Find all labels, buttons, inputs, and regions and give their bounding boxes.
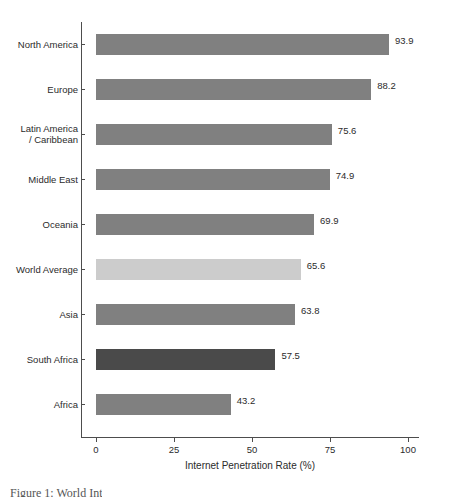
- figure-container: North AmericaEuropeLatin America / Carib…: [0, 0, 471, 497]
- x-axis-tick-label: 0: [93, 444, 98, 455]
- x-axis-tick-label: 100: [400, 444, 416, 455]
- y-axis-tick: [81, 224, 85, 225]
- y-axis-category-label: North America: [0, 39, 78, 50]
- bar-value-label: 75.6: [338, 126, 357, 136]
- bar-value-label: 88.2: [377, 81, 396, 91]
- y-axis-category-label: World Average: [0, 264, 78, 275]
- plot-area: 93.988.275.674.969.965.663.857.543.2: [81, 22, 408, 437]
- y-axis-category-label: Europe: [0, 84, 78, 95]
- y-axis-tick: [81, 404, 85, 405]
- y-axis-tick: [81, 44, 85, 45]
- bar-row: 57.5: [81, 337, 408, 382]
- y-axis-tick: [81, 134, 85, 135]
- bar-value-label: 69.9: [320, 216, 339, 226]
- bar-row: 75.6: [81, 112, 408, 157]
- y-axis-category-label: Latin America / Caribbean: [0, 123, 78, 145]
- bar-value-label: 43.2: [237, 396, 256, 406]
- bar-row: 74.9: [81, 157, 408, 202]
- bar[interactable]: [96, 34, 389, 55]
- x-axis-tick: [96, 438, 97, 442]
- x-axis-tick-label: 25: [169, 444, 180, 455]
- y-axis-category-label: Africa: [0, 399, 78, 410]
- bar-row: 63.8: [81, 292, 408, 337]
- bar[interactable]: [96, 214, 314, 235]
- y-axis-category-label: South Africa: [0, 354, 78, 365]
- x-axis-tick: [174, 438, 175, 442]
- x-axis-line: [81, 437, 419, 438]
- y-axis-category-label: Middle East: [0, 174, 78, 185]
- y-axis-tick: [81, 269, 85, 270]
- bar-value-label: 65.6: [307, 261, 326, 271]
- y-axis-tick: [81, 89, 85, 90]
- bar-row: 69.9: [81, 202, 408, 247]
- x-axis-tick-label: 50: [247, 444, 258, 455]
- bar[interactable]: [96, 169, 330, 190]
- x-axis-tick: [408, 438, 409, 442]
- bar-row: 65.6: [81, 247, 408, 292]
- bar-row: 88.2: [81, 67, 408, 112]
- bar[interactable]: [96, 349, 275, 370]
- bar[interactable]: [96, 259, 301, 280]
- x-axis-tick-label: 75: [325, 444, 336, 455]
- y-axis-category-label: Oceania: [0, 219, 78, 230]
- bar-value-label: 63.8: [301, 306, 320, 316]
- bar-row: 43.2: [81, 382, 408, 427]
- bar[interactable]: [96, 304, 295, 325]
- x-axis-tick: [330, 438, 331, 442]
- x-axis-tick: [252, 438, 253, 442]
- y-axis-tick: [81, 359, 85, 360]
- bar-value-label: 74.9: [336, 171, 355, 181]
- y-axis-tick: [81, 314, 85, 315]
- bar[interactable]: [96, 394, 231, 415]
- bar[interactable]: [96, 124, 332, 145]
- bar[interactable]: [96, 79, 371, 100]
- bar-value-label: 57.5: [281, 351, 300, 361]
- bar-row: 93.9: [81, 22, 408, 67]
- figure-caption: Figure 1: World Int: [10, 486, 102, 497]
- y-axis-labels: North AmericaEuropeLatin America / Carib…: [0, 22, 78, 437]
- y-axis-category-label: Asia: [0, 309, 78, 320]
- bar-value-label: 93.9: [395, 36, 414, 46]
- x-axis-title: Internet Penetration Rate (%): [81, 460, 419, 471]
- y-axis-tick: [81, 179, 85, 180]
